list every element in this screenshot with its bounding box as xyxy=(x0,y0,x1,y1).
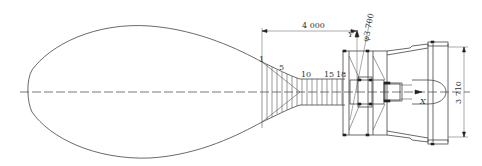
dim-height-label: 3 710 xyxy=(454,81,463,104)
dim-arrow-top xyxy=(463,47,466,52)
station-label-5: 5 xyxy=(279,63,284,72)
station-label-1: 1 xyxy=(259,55,264,64)
x-axis-arrow xyxy=(415,90,422,94)
dim-arrow-bottom xyxy=(463,132,466,137)
contraction-lower xyxy=(262,105,345,122)
drawing-canvas: 1 5 10 15 18 4 000 Y φ3 700 xyxy=(0,0,482,166)
station-label-15: 15 xyxy=(324,70,334,79)
section-drawing: 1 5 10 15 18 4 000 Y φ3 700 xyxy=(0,0,482,166)
dim-arrow-left xyxy=(262,30,267,33)
station-label-18: 18 xyxy=(336,70,346,79)
diameter-label: φ3 700 xyxy=(361,13,376,43)
station-label-10: 10 xyxy=(301,70,311,79)
fan-section xyxy=(343,50,412,136)
y-axis-label: Y xyxy=(348,30,354,39)
dim-length-label: 4 000 xyxy=(302,21,325,30)
x-axis-label: X xyxy=(419,97,426,106)
